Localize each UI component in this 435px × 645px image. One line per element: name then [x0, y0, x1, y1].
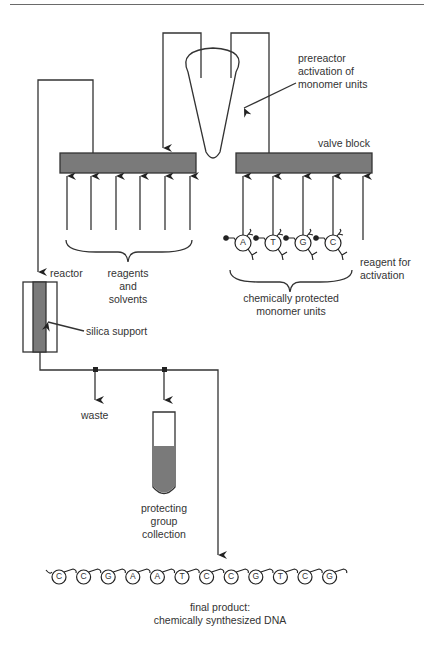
nucleotide-letter: G: [102, 570, 114, 583]
silica-support-label: silica support: [86, 325, 147, 338]
chemically-protected-label: chemically protected monomer units: [230, 292, 352, 318]
nucleotide-letter: C: [225, 570, 237, 583]
final-product-label: final product: chemically synthesized DN…: [110, 601, 330, 627]
monomer-A: A: [236, 236, 250, 249]
nucleotide-letter: A: [151, 570, 163, 583]
silica-support: [33, 282, 46, 352]
pipe-top-loop-2: [231, 33, 269, 153]
protecting-group-label: protecting group collection: [130, 502, 198, 541]
left-valve-block: [60, 153, 196, 173]
reagents-brace: [66, 240, 192, 262]
nucleotide-letter: T: [176, 570, 188, 583]
prereactor-pointer: [244, 83, 296, 108]
valve-block-label: valve block: [318, 137, 370, 150]
monomer-T: T: [266, 236, 280, 249]
nucleotide-letter: A: [127, 570, 139, 583]
nucleotide-letter: C: [53, 570, 65, 583]
nucleotide-letter: C: [201, 570, 213, 583]
nucleotide-letter: C: [299, 570, 311, 583]
reactor-label: reactor: [50, 267, 83, 280]
monomers-brace: [230, 270, 352, 292]
monomer-G: G: [296, 236, 310, 249]
reagents-solvents-label: reagents and solvents: [98, 267, 158, 306]
nucleotide-letter: G: [250, 570, 262, 583]
pipe-left-loop: [38, 80, 93, 272]
waste-label: waste: [81, 409, 108, 422]
prereactor-label: prereactor activation of monomer units: [298, 52, 367, 91]
nucleotide-letter: G: [324, 570, 336, 583]
dna-synthesizer-diagram: [0, 0, 435, 645]
right-valve-block: [236, 153, 372, 173]
reagent-for-activation-label: reagent for activation: [360, 256, 411, 282]
nucleotide-letter: C: [78, 570, 90, 583]
monomer-C: C: [326, 236, 340, 249]
pipe-top-loop-1: [163, 33, 201, 148]
nucleotide-letter: T: [274, 570, 286, 583]
